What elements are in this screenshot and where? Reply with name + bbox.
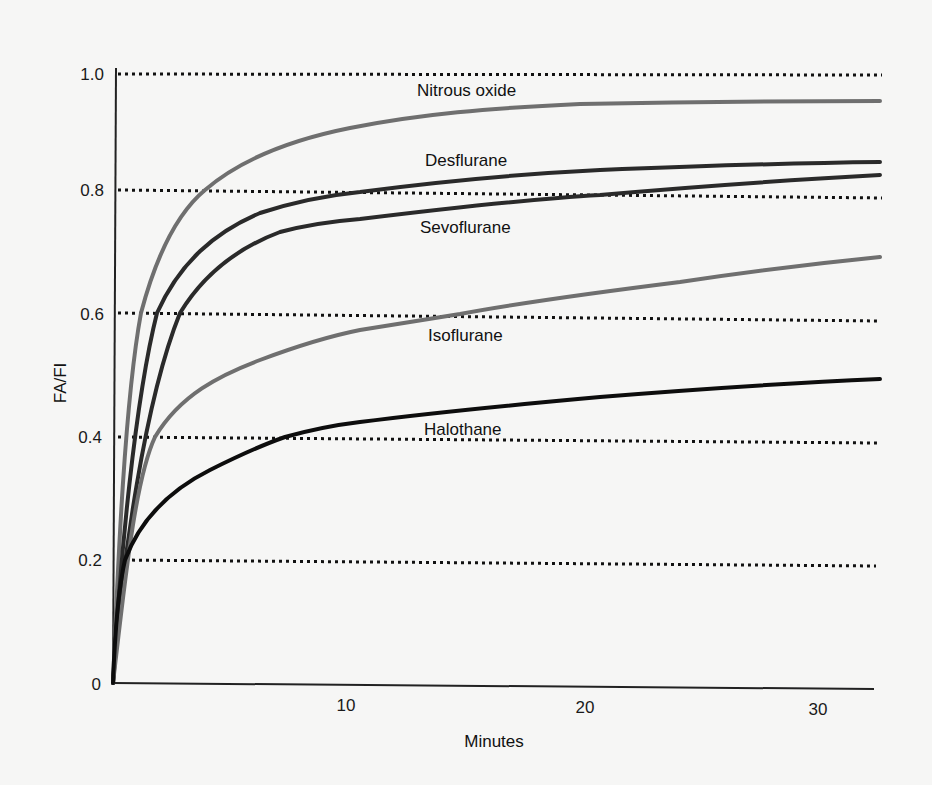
y-tick-labels: 1.0 0.8 0.6 0.4 0.2 0 — [78, 65, 104, 694]
label-halothane: Halothane — [424, 420, 502, 439]
gridline-1.0 — [118, 74, 882, 75]
y-tick-0.8: 0.8 — [80, 181, 104, 200]
label-desflurane: Desflurane — [425, 151, 507, 170]
x-tick-10: 10 — [337, 696, 356, 715]
y-tick-0: 0 — [92, 675, 101, 694]
label-isoflurane: Isoflurane — [428, 326, 503, 345]
x-axis-title: Minutes — [464, 732, 524, 751]
x-tick-30: 30 — [809, 700, 828, 719]
x-axis — [113, 683, 874, 689]
y-tick-1.0: 1.0 — [80, 65, 104, 84]
label-nitrous-oxide: Nitrous oxide — [417, 81, 516, 100]
gridlines — [118, 74, 882, 566]
y-tick-0.6: 0.6 — [80, 305, 104, 324]
x-tick-20: 20 — [576, 698, 595, 717]
gridline-0.6 — [118, 313, 880, 321]
x-tick-labels: 10 20 30 — [337, 696, 828, 719]
curve-nitrous-oxide — [113, 101, 880, 683]
y-tick-0.4: 0.4 — [78, 428, 102, 447]
gridline-0.8 — [118, 190, 882, 198]
gridline-0.2 — [118, 560, 876, 566]
label-sevoflurane: Sevoflurane — [420, 218, 511, 237]
y-tick-0.2: 0.2 — [78, 551, 102, 570]
series-labels: Nitrous oxide Desflurane Sevoflurane Iso… — [417, 81, 516, 439]
chart-figure: Nitrous oxide Desflurane Sevoflurane Iso… — [0, 0, 932, 785]
chart-svg: Nitrous oxide Desflurane Sevoflurane Iso… — [0, 0, 932, 785]
y-axis-title: FA/FI — [51, 363, 70, 404]
